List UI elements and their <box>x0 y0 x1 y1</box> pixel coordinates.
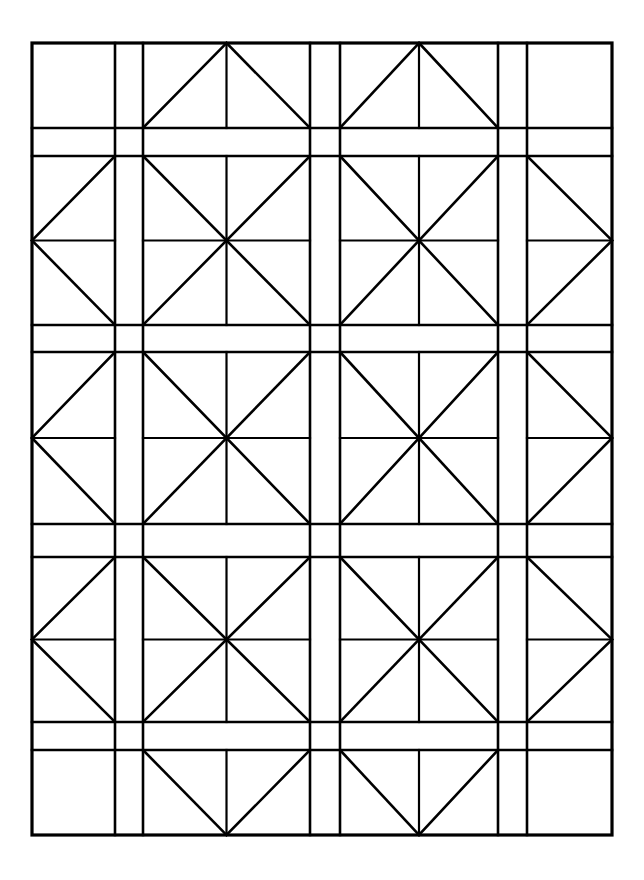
figure-background <box>0 0 644 880</box>
quilt-pattern-figure <box>0 0 644 880</box>
quilt-pattern-canvas <box>0 0 644 880</box>
